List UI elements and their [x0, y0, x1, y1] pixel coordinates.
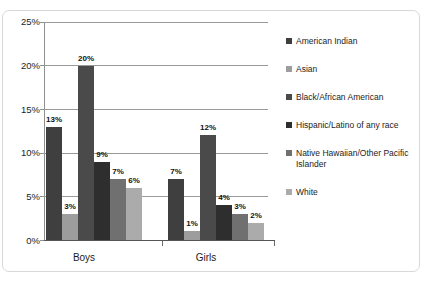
- legend: American Indian Asian Black/African Amer…: [286, 36, 422, 215]
- bar-value-label: 9%: [90, 151, 114, 159]
- y-tick-label-25: 25%: [6, 17, 40, 27]
- bar-value-label: 20%: [74, 55, 98, 63]
- bar-value-label: 12%: [196, 124, 220, 132]
- bar-girls-white: [248, 223, 264, 240]
- legend-swatch-icon: [286, 122, 292, 128]
- chart-screenshot: 25% 20% 15% 10% 5% 0% 13%: [0, 0, 425, 285]
- x-axis-group-label-girls: Girls: [176, 253, 236, 263]
- y-tick-label-10: 10%: [6, 148, 40, 158]
- bar-girls-asian: [184, 231, 200, 240]
- legend-label: Native Hawaiian/Other Pacific Islander: [296, 148, 422, 170]
- bar-boys-asian: [62, 214, 78, 240]
- legend-label: Asian: [296, 64, 317, 75]
- legend-item-hispanic-latino[interactable]: Hispanic/Latino of any race: [286, 120, 422, 131]
- legend-swatch-icon: [286, 94, 292, 100]
- y-tick-label-20: 20%: [6, 61, 40, 71]
- x-axis-end-tick: [274, 241, 275, 246]
- legend-label: American Indian: [296, 36, 357, 47]
- bar-value-label: 7%: [164, 168, 188, 176]
- y-tick-label-0: 0%: [6, 236, 40, 246]
- legend-item-american-indian[interactable]: American Indian: [286, 36, 422, 47]
- bar-value-label: 6%: [122, 177, 146, 185]
- bar-value-label: 3%: [58, 203, 82, 211]
- bar-value-label: 2%: [244, 212, 268, 220]
- legend-swatch-icon: [286, 150, 292, 156]
- legend-label: Black/African American: [296, 92, 383, 103]
- legend-swatch-icon: [286, 66, 292, 72]
- bar-value-label: 1%: [180, 220, 204, 228]
- bar-boys-american-indian: [46, 127, 62, 240]
- y-tick-label-15: 15%: [6, 105, 40, 115]
- gridline-25: [44, 22, 268, 23]
- legend-label: Hispanic/Latino of any race: [296, 120, 399, 131]
- bar-boys-white: [126, 188, 142, 240]
- legend-item-white[interactable]: White: [286, 187, 422, 198]
- legend-swatch-icon: [286, 38, 292, 44]
- x-axis-group-label-boys: Boys: [54, 253, 114, 263]
- x-axis-group-divider-tick: [162, 241, 163, 246]
- legend-item-black-african-american[interactable]: Black/African American: [286, 92, 422, 103]
- bar-value-label: 3%: [228, 203, 252, 211]
- x-axis-line: [44, 240, 275, 241]
- bar-boys-native-hawaiian: [110, 179, 126, 240]
- y-tick-label-5: 5%: [6, 192, 40, 202]
- legend-label: White: [296, 187, 318, 198]
- legend-swatch-icon: [286, 189, 292, 195]
- bar-girls-american-indian: [168, 179, 184, 240]
- y-axis-labels: 25% 20% 15% 10% 5% 0%: [0, 0, 40, 285]
- bar-value-label: 7%: [106, 168, 130, 176]
- plot-area: 13% 3% 20% 9% 7% 6% 7% 1% 12% 4% 3% 2%: [44, 22, 268, 240]
- legend-item-asian[interactable]: Asian: [286, 64, 422, 75]
- bar-value-label: 4%: [212, 194, 236, 202]
- bar-value-label: 13%: [42, 116, 66, 124]
- legend-item-native-hawaiian[interactable]: Native Hawaiian/Other Pacific Islander: [286, 148, 422, 170]
